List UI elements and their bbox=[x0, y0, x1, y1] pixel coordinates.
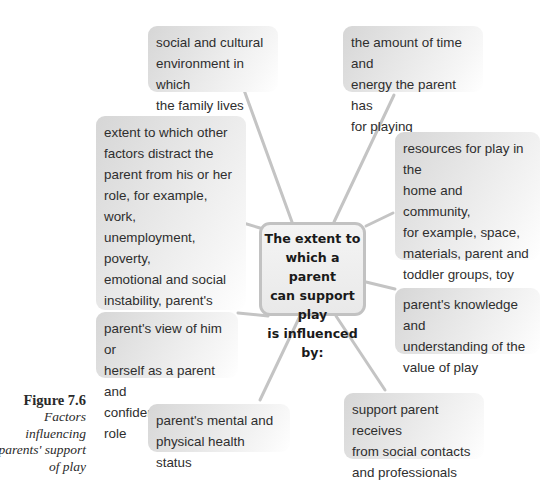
connector-resources bbox=[366, 213, 393, 226]
factor-resources: resources for play in the home and commu… bbox=[395, 132, 540, 260]
factor-distractions: extent to which other factors distract t… bbox=[96, 116, 246, 310]
figure-description: Factors influencing parents' support of … bbox=[0, 409, 86, 475]
figure-label: Figure 7.6 bbox=[0, 392, 86, 409]
factor-support: support parent receives from social cont… bbox=[344, 393, 484, 459]
factor-time-energy: the amount of time and energy the parent… bbox=[343, 26, 483, 92]
connector-social-cultural bbox=[244, 90, 292, 222]
figure-caption: Figure 7.6 Factors influencing parents' … bbox=[0, 392, 86, 475]
factor-self-view: parent's view of him or herself as a par… bbox=[96, 312, 238, 378]
connector-knowledge bbox=[366, 282, 395, 289]
factor-knowledge: parent's knowledge and understanding of … bbox=[395, 288, 540, 354]
factor-health: parent's mental and physical health stat… bbox=[148, 404, 290, 452]
factor-social-cultural: social and cultural environment in which… bbox=[148, 26, 278, 92]
central-topic: The extent to which a parent can support… bbox=[259, 222, 366, 316]
